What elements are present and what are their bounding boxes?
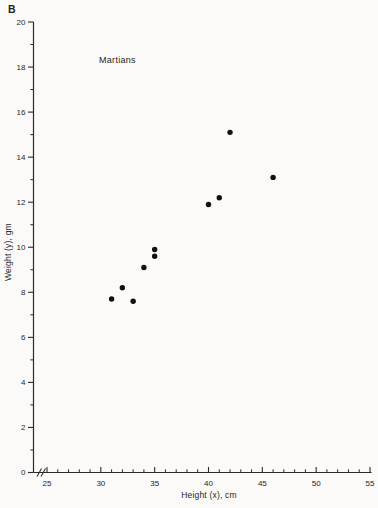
- y-tick-label: 18: [17, 63, 26, 72]
- y-tick-label: 10: [17, 243, 26, 252]
- panel-label: B: [8, 3, 16, 15]
- data-point: [130, 299, 135, 304]
- data-point: [227, 130, 232, 135]
- data-point: [141, 265, 146, 270]
- y-axis-title: Weight (y), gm: [3, 223, 13, 281]
- scatter-plot-figure: 2530354045505502468101214161820 B Martia…: [0, 0, 378, 508]
- data-point: [217, 195, 222, 200]
- y-tick-label: 4: [21, 378, 26, 387]
- y-tick-label: 16: [17, 108, 26, 117]
- y-tick-label: 20: [17, 18, 26, 27]
- y-tick-label: 0: [21, 468, 26, 477]
- x-tick-label: 45: [258, 479, 267, 488]
- data-point: [152, 254, 157, 259]
- y-tick-label: 2: [21, 423, 26, 432]
- martians-annotation: Martians: [99, 55, 136, 65]
- x-axis-title: Height (x), cm: [181, 490, 237, 500]
- y-tick-label: 12: [17, 198, 26, 207]
- x-tick-label: 40: [204, 479, 213, 488]
- x-tick-label: 30: [96, 479, 105, 488]
- data-point: [270, 175, 275, 180]
- data-point: [152, 247, 157, 252]
- chart-canvas: 2530354045505502468101214161820: [0, 0, 378, 508]
- data-point: [120, 285, 125, 290]
- x-tick-label: 25: [43, 479, 52, 488]
- x-tick-label: 55: [366, 479, 375, 488]
- y-tick-label: 8: [21, 288, 26, 297]
- x-tick-label: 50: [312, 479, 321, 488]
- data-point: [206, 202, 211, 207]
- y-tick-label: 14: [17, 153, 26, 162]
- data-point: [109, 296, 114, 301]
- y-tick-label: 6: [21, 333, 26, 342]
- x-tick-label: 35: [150, 479, 159, 488]
